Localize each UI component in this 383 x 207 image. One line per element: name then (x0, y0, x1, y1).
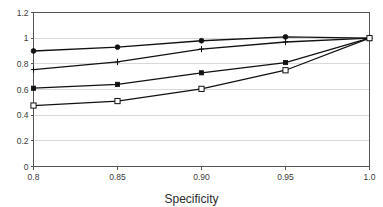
data-point-marker (115, 45, 120, 50)
y-tick-label: 0 (24, 162, 29, 172)
y-tick-label: 0.4 (17, 110, 29, 120)
data-point-marker (283, 34, 288, 39)
x-axis-title: Specificity (164, 192, 218, 206)
y-tick-label: 0.2 (17, 136, 29, 146)
data-series-group (31, 34, 372, 108)
data-point-marker (199, 46, 204, 52)
x-tick-label: 1.0 (364, 172, 376, 182)
x-tick-label: 0.8 (28, 172, 40, 182)
x-tick-label: 0.95 (277, 172, 294, 182)
data-point-marker (283, 39, 288, 45)
data-point-marker (283, 68, 288, 73)
y-tick-label: 1.2 (17, 8, 29, 18)
x-tick-label: 0.90 (193, 172, 210, 182)
data-point-marker (283, 60, 287, 64)
data-series (31, 36, 371, 90)
x-tick-label: 0.85 (109, 172, 126, 182)
x-axis-tick-labels: 0.80.850.900.951.0 (28, 172, 376, 182)
data-point-marker (199, 38, 204, 43)
data-point-marker (31, 86, 35, 90)
data-point-marker (115, 82, 119, 86)
series-line (34, 38, 370, 88)
line-chart: 00.20.40.60.811.2 0.80.850.900.951.0 Spe… (0, 0, 383, 207)
data-point-marker (31, 103, 36, 108)
data-point-marker (115, 98, 120, 103)
chart-container: 00.20.40.60.811.2 0.80.850.900.951.0 Spe… (0, 0, 383, 207)
data-point-marker (31, 66, 36, 72)
y-tick-label: 0.8 (17, 59, 29, 69)
y-tick-label: 1 (24, 33, 29, 43)
data-point-marker (199, 86, 204, 91)
y-axis-tick-labels: 00.20.40.60.811.2 (17, 8, 29, 172)
y-tick-label: 0.6 (17, 85, 29, 95)
data-point-marker (367, 36, 372, 41)
data-point-marker (31, 49, 36, 54)
data-point-marker (199, 71, 203, 75)
